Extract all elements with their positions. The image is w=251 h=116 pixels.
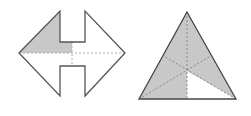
double-arrow-shaded-region (19, 11, 72, 53)
figure-canvas (0, 0, 251, 116)
fraction-diagrams (0, 0, 251, 116)
triangle-figure (139, 12, 236, 99)
double-arrow-figure (19, 11, 125, 96)
